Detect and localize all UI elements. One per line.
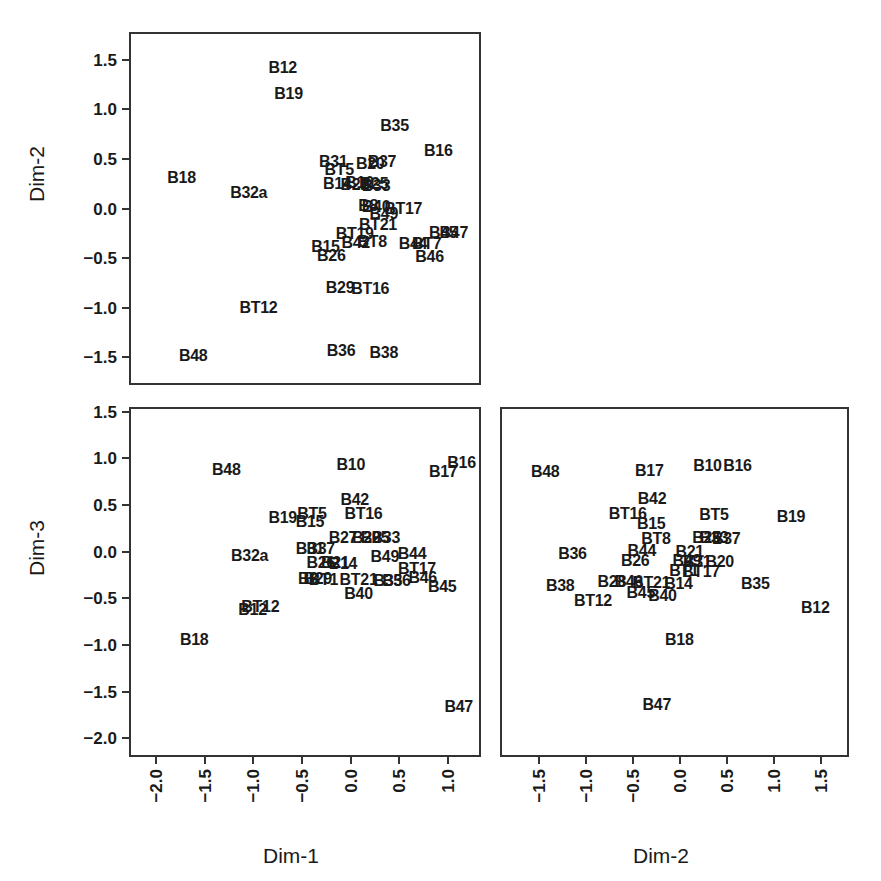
x-dim1-tick-mark [398,757,400,764]
data-point-label: BT16 [344,506,382,522]
x-dim2-tick-label: 1.0 [765,769,782,793]
y-axis-title-dim2: Dim-2 [26,146,47,202]
data-point-label: B47 [643,697,671,713]
data-point-label: BT16 [351,281,389,297]
x-dim1-tick-label: 1.0 [439,769,456,793]
data-point-label: B17 [429,464,457,480]
panel-dim3-vs-dim1: B10B16B48B17B42BT5BT16B19B15B27B20B25B33… [129,407,481,757]
data-point-label: B19 [777,509,805,525]
x-dim1-tick-mark [155,757,157,764]
panel-dim2-vs-dim1: B12B19B35B16B31B37B20BT5B18B14B10B21B25B… [129,32,481,385]
x-dim2-tick-label: −1.5 [531,769,548,803]
data-point-label: B17 [635,463,663,479]
data-point-label: B48 [179,348,207,364]
data-point-label: B32a [230,185,267,201]
x-dim2-tick-label: 1.5 [812,769,829,793]
x-dim2-tick-mark [679,757,681,764]
y-dim2-tick-mark [122,158,129,160]
data-point-label: B10 [693,458,721,474]
data-point-label: B48 [212,462,240,478]
data-point-label: B45 [428,579,456,595]
data-point-label: B12 [268,60,296,76]
data-point-label: B12 [238,602,266,618]
data-point-label: BT12 [574,593,612,609]
data-point-label: B32a [231,548,268,564]
data-point-label: B29 [326,280,354,296]
x-axis-title-dim2: Dim-2 [633,845,689,866]
y-axis-title-dim3: Dim-3 [26,520,47,576]
x-dim1-tick-mark [447,757,449,764]
data-point-label: B19 [268,510,296,526]
data-point-label: B15 [296,514,324,530]
x-dim2-tick-mark [820,757,822,764]
y-dim2-tick-mark [122,208,129,210]
data-point-label: B38 [546,578,574,594]
y-dim2-tick-mark [122,307,129,309]
x-dim2-tick-mark [632,757,634,764]
y-dim3-tick-label: 0.0 [71,543,117,560]
data-point-label: BT12 [239,300,277,316]
data-point-label: B26 [621,553,649,569]
data-point-label: B33 [362,178,390,194]
x-dim2-tick-mark [726,757,728,764]
y-dim3-tick-label: −2.0 [71,730,117,747]
x-dim2-tick-label: 0.5 [719,769,736,793]
y-dim2-tick-label: −1.5 [71,349,117,366]
y-dim3-tick-label: −1.5 [71,683,117,700]
data-point-label: B36 [327,343,355,359]
y-dim2-tick-mark [122,257,129,259]
y-dim3-tick-label: 1.5 [71,403,117,420]
panel-dim3-vs-dim2: B10B16B48B17B42BT16BT5B19B15BT8B25B33B37… [500,407,849,757]
data-point-label: B36 [382,573,410,589]
y-dim2-tick-mark [122,108,129,110]
y-dim3-tick-label: −1.0 [71,637,117,654]
data-point-label: B10 [337,457,365,473]
x-dim1-tick-label: −2.0 [148,769,165,803]
y-dim3-tick-mark [122,457,129,459]
y-dim2-tick-label: 1.5 [71,51,117,68]
x-dim1-tick-mark [301,757,303,764]
y-dim3-tick-label: 0.5 [71,497,117,514]
y-dim2-tick-label: 0.0 [71,200,117,217]
x-dim2-tick-mark [538,757,540,764]
y-dim2-tick-mark [122,59,129,61]
y-dim2-tick-label: 0.5 [71,150,117,167]
data-point-label: B48 [531,464,559,480]
x-dim1-tick-mark [350,757,352,764]
x-dim2-tick-label: 0.0 [672,769,689,793]
y-dim3-tick-mark [122,551,129,553]
data-point-label: B16 [424,143,452,159]
data-point-label: BT5 [699,507,728,523]
y-dim3-tick-mark [122,504,129,506]
data-point-label: B35 [380,118,408,134]
data-point-label: B47 [440,225,468,241]
y-dim3-tick-mark [122,597,129,599]
data-point-label: B20 [356,156,384,172]
data-point-label: B14 [329,556,357,572]
data-point-label: B26 [317,248,345,264]
data-point-label: B19 [274,86,302,102]
data-point-label: BT1 [309,572,338,588]
data-point-label: B37 [712,531,740,547]
y-dim3-tick-mark [122,644,129,646]
x-dim1-tick-label: −1.0 [245,769,262,803]
x-dim1-tick-label: 0.0 [342,769,359,793]
data-point-label: B33 [372,530,400,546]
x-dim1-tick-mark [252,757,254,764]
data-point-label: B46 [415,249,443,265]
x-dim1-tick-mark [204,757,206,764]
y-dim3-tick-label: 1.0 [71,450,117,467]
y-dim2-tick-mark [122,356,129,358]
data-point-label: B18 [665,632,693,648]
x-dim2-tick-mark [773,757,775,764]
data-point-label: BT8 [357,234,386,250]
data-point-label: B18 [180,632,208,648]
y-dim3-tick-mark [122,411,129,413]
data-point-label: B38 [370,345,398,361]
x-dim1-tick-label: 0.5 [391,769,408,793]
data-point-label: B47 [444,699,472,715]
y-dim3-tick-mark [122,691,129,693]
x-dim2-tick-label: −1.0 [578,769,595,803]
data-point-label: B40 [344,586,372,602]
data-point-label: B49 [371,549,399,565]
